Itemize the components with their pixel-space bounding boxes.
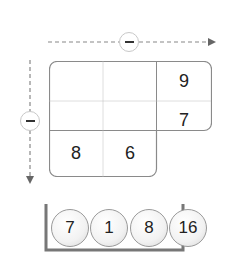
vertical-minus-operator[interactable]: [20, 111, 40, 131]
number-ball[interactable]: 1: [90, 209, 128, 247]
number-ball[interactable]: 8: [130, 209, 168, 247]
minus-icon: [26, 120, 35, 122]
number-ball[interactable]: 7: [51, 209, 89, 247]
grid-cell-r2c3: 7: [157, 101, 211, 139]
number-ball[interactable]: 16: [169, 209, 207, 247]
horizontal-minus-operator[interactable]: [119, 32, 139, 52]
grid-cell-r3c2: 6: [103, 134, 157, 172]
grid-cell-r1c3: 9: [157, 62, 211, 100]
grid-cell-r3c1: 8: [49, 134, 103, 172]
minus-icon: [125, 41, 134, 43]
